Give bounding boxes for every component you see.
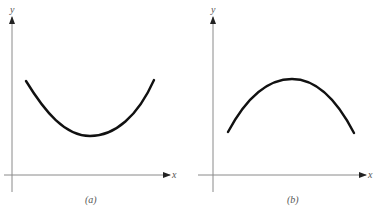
curve-maximum — [228, 79, 354, 133]
panel-b: y x (b) — [198, 4, 373, 206]
x-axis-label-a: x — [171, 169, 177, 180]
y-axis-label-b: y — [210, 4, 216, 15]
curve-minimum — [26, 80, 154, 136]
figure: y x (a) y x (b) — [0, 0, 378, 212]
caption-b: (b) — [287, 194, 299, 206]
x-axis-label-b: x — [367, 169, 373, 180]
y-axis-label-a: y — [9, 4, 15, 15]
panel-a: y x (a) — [4, 4, 177, 206]
caption-a: (a) — [85, 194, 97, 206]
